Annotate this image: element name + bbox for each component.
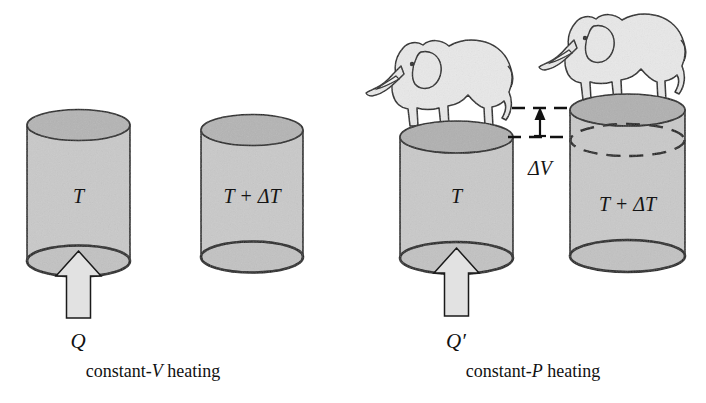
delta-v-label: ΔV — [527, 157, 555, 179]
caption-variable: P — [531, 361, 543, 381]
elephant-ear — [585, 25, 614, 62]
cylinder-bottom-ellipse — [570, 240, 685, 272]
cylinder-top-ellipse — [400, 121, 513, 153]
caption-symbol-q: Q — [70, 329, 85, 353]
figure-canvas: T T + ΔT Q constant-V heating — [0, 0, 706, 403]
cylinder-top-ellipse — [570, 94, 685, 126]
temperature-label-cv-after: T + ΔT — [223, 185, 282, 207]
elephant-ear — [412, 51, 441, 88]
cylinder-cp-after — [570, 94, 685, 272]
cylinder-top-ellipse — [201, 115, 303, 146]
thermodynamics-figure: T T + ΔT Q constant-V heating — [0, 0, 706, 403]
temperature-label-cv-before: T — [73, 185, 86, 207]
elephant-eye — [583, 36, 587, 40]
caption-symbol-q-prime: Q′ — [446, 329, 466, 353]
temperature-label-cp-after: T + ΔT — [599, 193, 658, 215]
caption-constant-v-heating: constant-V heating — [86, 361, 220, 381]
temperature-label-cp-before: T — [451, 185, 464, 207]
caption-prefix: constant- — [86, 361, 152, 381]
caption-constant-p-heating: constant-P heating — [466, 361, 600, 381]
caption-suffix: heating — [543, 361, 600, 381]
caption-prefix: constant- — [466, 361, 532, 381]
caption-suffix: heating — [163, 361, 220, 381]
elephant-eye — [410, 62, 414, 66]
cylinder-top-ellipse — [27, 110, 130, 141]
cylinder-bottom-ellipse — [201, 242, 303, 273]
